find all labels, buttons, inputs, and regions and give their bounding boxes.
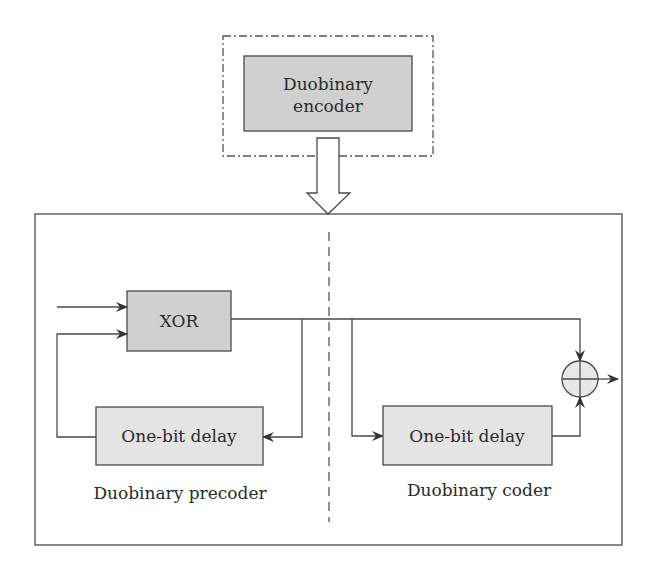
xor-block: XOR xyxy=(127,291,231,351)
coder-branch-arrow xyxy=(352,319,383,436)
expand-arrow-icon xyxy=(307,138,350,214)
precoder-delay-label: One-bit delay xyxy=(121,426,237,446)
coder-caption: Duobinary coder xyxy=(407,480,552,500)
duobinary-diagram: Duobinary encoder XOR One-bit delay One-… xyxy=(0,0,649,571)
xor-label: XOR xyxy=(160,311,200,331)
xor-output-line xyxy=(231,319,580,361)
coder-delay-block: One-bit delay xyxy=(383,406,552,465)
coder-delay-output-arrow xyxy=(552,397,580,436)
precoder-branch-arrow xyxy=(263,319,302,437)
encoder-label-line1: Duobinary xyxy=(283,74,373,94)
adder-icon xyxy=(562,361,598,397)
precoder-delay-block: One-bit delay xyxy=(96,407,263,465)
duobinary-encoder-block: Duobinary encoder xyxy=(244,56,412,131)
coder-delay-label: One-bit delay xyxy=(409,426,525,446)
precoder-caption: Duobinary precoder xyxy=(93,483,267,503)
encoder-label-line2: encoder xyxy=(293,96,364,116)
